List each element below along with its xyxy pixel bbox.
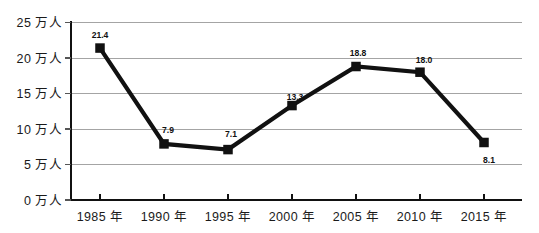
x-tick-label-2000: 2000 年 <box>269 210 316 224</box>
x-tick-label-2015: 2015 年 <box>461 210 508 224</box>
y-tick-label-25: 25 万人 <box>17 16 62 30</box>
data-point-marker <box>287 101 297 111</box>
data-point-marker <box>95 43 105 53</box>
y-tick-label-15: 15 万人 <box>17 87 62 101</box>
y-tick-label-10: 10 万人 <box>17 123 62 137</box>
data-point-marker <box>479 138 489 148</box>
value-label-1995: 7.1 <box>225 129 237 139</box>
y-tick-label-5: 5 万人 <box>24 158 62 172</box>
x-axis-labels: 1985 年 1990 年 1995 年 2000 年 2005 年 2010 … <box>77 210 508 224</box>
value-label-2010: 18.0 <box>416 55 433 65</box>
data-point-marker <box>159 139 169 149</box>
x-tick-label-1995: 1995 年 <box>205 210 252 224</box>
value-label-2015: 8.1 <box>483 155 495 165</box>
data-point-marker <box>223 145 233 155</box>
y-tick-label-20: 20 万人 <box>17 52 62 66</box>
value-label-1985: 21.4 <box>92 30 109 40</box>
chart-canvas: 25 万人 20 万人 15 万人 10 万人 5 万人 0 万人 1985 年… <box>0 0 539 233</box>
value-labels: 21.4 7.9 7.1 13.3 18.8 18.0 8.1 <box>92 30 496 165</box>
y-axis-labels: 25 万人 20 万人 15 万人 10 万人 5 万人 0 万人 <box>17 16 62 208</box>
line-chart-figure: 25 万人 20 万人 15 万人 10 万人 5 万人 0 万人 1985 年… <box>0 0 539 233</box>
x-tick-label-2005: 2005 年 <box>333 210 380 224</box>
value-label-2000: 13.3 <box>287 92 304 102</box>
value-label-2005: 18.8 <box>350 48 367 58</box>
x-tick-label-1985: 1985 年 <box>77 210 124 224</box>
data-point-marker <box>415 67 425 77</box>
y-tick-label-0: 0 万人 <box>24 194 62 208</box>
value-label-1990: 7.9 <box>162 125 174 135</box>
x-tick-label-2010: 2010 年 <box>397 210 444 224</box>
data-point-marker <box>351 62 361 72</box>
x-tick-label-1990: 1990 年 <box>141 210 188 224</box>
